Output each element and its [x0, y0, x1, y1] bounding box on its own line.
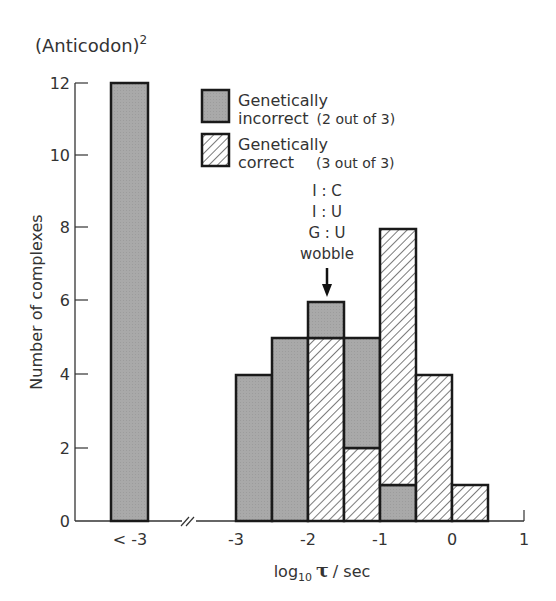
x-tick-label: -1	[372, 530, 388, 549]
bar-incorrect-bin3	[308, 302, 344, 338]
y-tick-label: 4	[60, 365, 70, 384]
x-tick-label: -2	[300, 530, 316, 549]
x-tick-label: -3	[228, 530, 244, 549]
bar-incorrect-bin4	[344, 338, 380, 448]
svg-text:wobble: wobble	[300, 245, 354, 263]
svg-text:I : U: I : U	[312, 203, 342, 221]
bar-incorrect-bin1	[236, 375, 272, 521]
axis-break-icon	[181, 517, 194, 526]
chart-canvas: (Anticodon)2 0 2 4 6 8 10 12 Number of c…	[0, 0, 556, 601]
x-tick-label: < -3	[113, 530, 147, 549]
y-tick-label: 8	[60, 218, 70, 237]
y-tick-label: 10	[50, 146, 70, 165]
x-tick-label: 0	[447, 530, 457, 549]
y-axis-label: Number of complexes	[27, 214, 46, 389]
legend-label: incorrect(2 out of 3)	[238, 109, 395, 128]
legend: Genetically incorrect(2 out of 3) Geneti…	[202, 90, 395, 172]
svg-text:I : C: I : C	[312, 182, 342, 200]
wobble-annotation: I : C I : U G : U wobble	[300, 182, 354, 297]
y-tick-label: 0	[60, 512, 70, 531]
legend-label: Genetically	[238, 135, 328, 154]
bar-correct-bin5	[380, 229, 416, 485]
bar-correct-bin6	[416, 375, 452, 521]
bar-incorrect-bin5	[380, 485, 416, 521]
arrow-down-icon	[322, 268, 332, 297]
chart-title: (Anticodon)2	[35, 33, 147, 56]
legend-swatch-incorrect	[202, 90, 229, 122]
bar-incorrect-bin2	[272, 338, 308, 521]
y-axis: 0 2 4 6 8 10 12	[50, 74, 88, 531]
bar-incorrect-lt-3	[111, 83, 148, 521]
y-tick-label: 12	[50, 74, 70, 93]
legend-swatch-correct	[202, 134, 229, 166]
bar-correct-bin7	[452, 485, 488, 521]
legend-label: Genetically	[238, 91, 328, 110]
bar-correct-bin4	[344, 448, 380, 521]
y-tick-label: 6	[60, 291, 70, 310]
legend-label: correct(3 out of 3)	[238, 153, 395, 172]
svg-text:G : U: G : U	[308, 224, 345, 242]
y-tick-label: 2	[60, 439, 70, 458]
x-axis-label: log10τ/ sec	[274, 559, 371, 584]
bar-correct-bin3	[308, 338, 344, 521]
x-tick-label: 1	[519, 530, 529, 549]
